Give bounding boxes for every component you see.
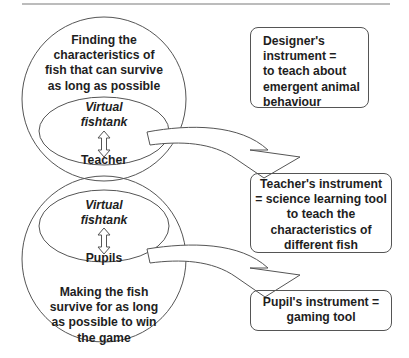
fishtank-label-line: fishtank (64, 115, 144, 130)
box-line: Teacher's instrument (251, 177, 391, 192)
caption-line: the game (40, 331, 168, 346)
caption-line: as possible to win (40, 315, 168, 330)
caption-line: characteristics of (40, 48, 168, 63)
caption-line: Finding the (40, 33, 168, 48)
lower-circle-caption: Making the fish survive for as long as p… (40, 285, 168, 346)
box-line: instrument = (263, 49, 368, 64)
teacher-instrument-box: Teacher's instrument = science learning … (250, 173, 392, 253)
box-line: to teach the (251, 207, 391, 222)
box-line: = science learning tool (251, 192, 391, 207)
teacher-fishtank-label: Virtual fishtank (64, 100, 144, 130)
box-line: emergent animal (263, 80, 368, 95)
box-line: different fish (251, 238, 391, 253)
box-line: to teach about (263, 64, 368, 79)
box-line: Designer's (263, 34, 368, 49)
caption-line: Making the fish (40, 285, 168, 300)
teacher-curved-arrow (147, 127, 300, 178)
upper-circle-caption: Finding the characteristics of fish that… (40, 33, 168, 94)
box-line: gaming tool (251, 310, 391, 325)
pupil-instrument-box: Pupil's instrument = gaming tool (250, 290, 392, 331)
fishtank-label-line: Virtual (64, 198, 144, 213)
pupils-fishtank-label: Virtual fishtank (64, 198, 144, 228)
box-line: behaviour (263, 95, 368, 110)
teacher-actor-label: Teacher (64, 153, 144, 168)
box-line: characteristics of (251, 223, 391, 238)
caption-line: as long as possible (40, 79, 168, 94)
caption-line: survive for as long (40, 300, 168, 315)
pupils-actor-label: Pupils (64, 251, 144, 266)
designer-instrument-box: Designer's instrument = to teach about e… (250, 27, 369, 108)
caption-line: fish that can survive (40, 63, 168, 78)
box-line: Pupil's instrument = (251, 295, 391, 310)
fishtank-label-line: Virtual (64, 100, 144, 115)
